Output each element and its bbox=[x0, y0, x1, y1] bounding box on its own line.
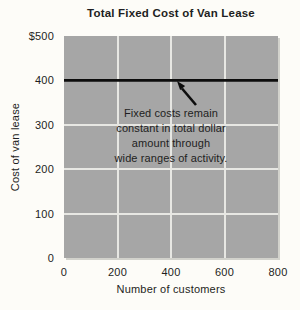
horizontal-gridline bbox=[64, 168, 278, 170]
y-tick-label: 100 bbox=[0, 207, 54, 221]
x-tick-label: 200 bbox=[98, 265, 138, 279]
x-tick-label: 800 bbox=[258, 265, 298, 279]
annotation-line: Fixed costs remain bbox=[91, 106, 251, 121]
annotation-line: amount through bbox=[91, 136, 251, 151]
chart-title: Total Fixed Cost of Van Lease bbox=[64, 7, 278, 19]
annotation-text: Fixed costs remainconstant in total doll… bbox=[91, 106, 251, 166]
y-tick-label: 400 bbox=[0, 73, 54, 87]
x-tick-label: 600 bbox=[205, 265, 245, 279]
x-tick-label: 400 bbox=[151, 265, 191, 279]
x-tick-label: 0 bbox=[44, 265, 84, 279]
y-tick-label: $500 bbox=[0, 29, 54, 43]
horizontal-gridline bbox=[64, 213, 278, 215]
annotation-line: wide ranges of activity. bbox=[91, 151, 251, 166]
y-tick-label: 0 bbox=[0, 251, 54, 265]
y-axis-title: Cost of van lease bbox=[9, 103, 21, 191]
x-axis-title: Number of customers bbox=[64, 283, 278, 295]
fixed-cost-chart-figure: Total Fixed Cost of Van Lease $500400300… bbox=[0, 0, 300, 310]
horizontal-gridline bbox=[64, 79, 278, 81]
annotation-line: constant in total dollar bbox=[91, 121, 251, 136]
